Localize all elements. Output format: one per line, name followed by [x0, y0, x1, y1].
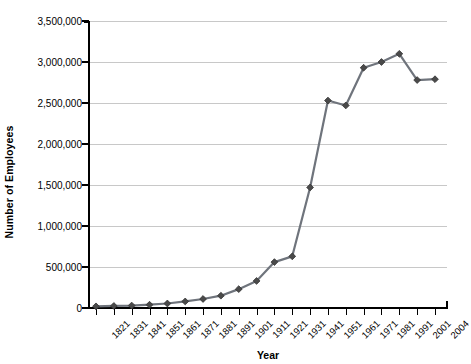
x-axis-tick-mark: [221, 308, 222, 315]
x-axis-tick-mark: [328, 308, 329, 315]
gridline: [89, 62, 447, 63]
y-axis-tick-label: 0: [18, 303, 82, 314]
x-axis-tick-label: 2001: [430, 318, 453, 341]
x-axis-tick-mark: [435, 308, 436, 315]
x-axis-tick-label: 1891: [234, 318, 257, 341]
gridline: [89, 267, 447, 268]
gridline: [89, 185, 447, 186]
x-axis-tick-label: 1951: [341, 318, 364, 341]
y-axis-tick-label: 1,000,000: [18, 221, 82, 232]
x-axis-tick-mark: [150, 308, 151, 315]
x-axis-tick-mark: [185, 308, 186, 315]
gridline: [89, 144, 447, 145]
x-axis-tick-label: 1831: [127, 318, 150, 341]
y-axis-tick-labels: 0500,0001,000,0001,500,0002,000,0002,500…: [18, 0, 82, 364]
x-axis-tick-mark: [132, 308, 133, 315]
gridline: [89, 103, 447, 104]
x-axis-line: [88, 307, 448, 309]
y-axis-tick-mark: [82, 20, 89, 22]
x-axis-tick-mark: [292, 308, 293, 315]
x-axis-tick-label: 1911: [270, 318, 292, 340]
x-axis-tick-mark: [399, 308, 400, 315]
x-axis-tick-mark: [167, 308, 168, 315]
y-axis-tick-mark: [82, 225, 89, 227]
x-axis-tick-mark: [239, 308, 240, 315]
y-axis-tick-label: 2,000,000: [18, 139, 82, 150]
x-axis-tick-label: 1841: [145, 318, 168, 341]
y-axis-tick-mark: [82, 266, 89, 268]
y-axis-tick-mark: [82, 307, 89, 309]
y-axis-tick-label: 2,500,000: [18, 98, 82, 109]
x-axis-tick-mark: [96, 308, 97, 315]
x-axis-tick-label: 1931: [305, 318, 328, 341]
x-axis-tick-mark: [346, 308, 347, 315]
x-axis-tick-mark: [364, 308, 365, 315]
x-axis-title: Year: [89, 349, 447, 361]
x-axis-tick-mark: [257, 308, 258, 315]
gridline: [89, 226, 447, 227]
x-axis-tick-mark: [274, 308, 275, 315]
x-axis-tick-mark: [381, 308, 382, 315]
plot-area: [89, 21, 447, 308]
x-axis-tick-label: 1941: [323, 318, 346, 341]
x-axis-tick-label: 1881: [216, 318, 239, 341]
x-axis-tick-label: 1871: [198, 318, 221, 341]
x-axis-tick-label: 1961: [359, 318, 382, 341]
x-axis-tick-label: 1821: [109, 318, 132, 341]
y-axis-tick-mark: [82, 184, 89, 186]
x-axis-tick-mark: [114, 308, 115, 315]
x-axis-tick-label: 2004: [448, 318, 471, 341]
y-axis-tick-mark: [82, 102, 89, 104]
x-axis-tick-mark: [203, 308, 204, 315]
y-axis-tick-label: 3,500,000: [18, 16, 82, 27]
x-axis-tick-mark: [417, 308, 418, 315]
x-axis-tick-mark: [310, 308, 311, 315]
y-axis-tick-mark: [82, 61, 89, 63]
y-axis-tick-mark: [82, 143, 89, 145]
gridline: [89, 21, 447, 22]
x-axis-right-cap: [446, 301, 448, 309]
y-axis-tick-label: 3,000,000: [18, 57, 82, 68]
y-axis-title: Number of Employees: [0, 0, 18, 364]
y-axis-tick-label: 500,000: [18, 262, 82, 273]
y-axis-tick-label: 1,500,000: [18, 180, 82, 191]
